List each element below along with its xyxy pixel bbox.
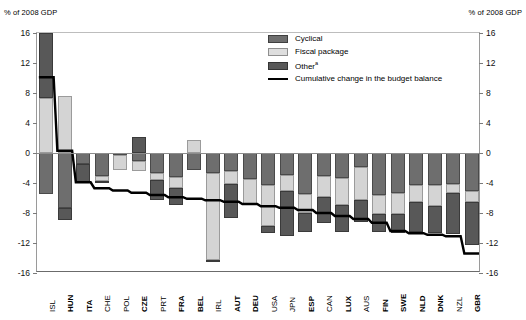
legend: CyclicalFiscal packageOtheraCumulative c… (268, 33, 483, 87)
y-tick-mark-right (479, 243, 483, 244)
chart-figure: % of 2008 GDP % of 2008 GDP 161612128844… (0, 0, 526, 320)
y-tick-mark-right (479, 93, 483, 94)
y-tick-label-left: 0 (25, 149, 30, 158)
x-axis-label-nld: NLD (419, 296, 427, 312)
legend-footnote-marker: a (315, 60, 318, 66)
y-axis-unit-right: % of 2008 GDP (469, 8, 522, 17)
legend-label-text: Fiscal package (295, 47, 348, 56)
x-axis-label-lux: LUX (345, 296, 353, 312)
x-axis-label-fra: FRA (178, 296, 186, 312)
y-tick-label-left: 8 (25, 89, 30, 98)
x-axis-label-hun: HUN (67, 295, 75, 312)
y-tick-label-right: 0 (486, 149, 491, 158)
legend-label-text: Cyclical (295, 34, 323, 43)
zero-line (37, 153, 479, 154)
y-tick-label-right: -8 (486, 209, 494, 218)
x-axis-label-ita: ITA (86, 300, 94, 312)
x-axis-label-isl: ISL (49, 300, 57, 312)
legend-label-line: Cumulative change in the budget balance (295, 75, 442, 83)
y-tick-label-left: 4 (25, 119, 30, 128)
y-tick-mark-right (479, 273, 483, 274)
x-axis-label-swe: SWE (400, 294, 408, 312)
y-tick-mark-right (479, 153, 483, 154)
legend-item-fiscal: Fiscal package (268, 47, 483, 58)
y-tick-label-left: -12 (18, 239, 30, 248)
x-axis-label-che: CHE (104, 295, 112, 312)
y-tick-label-left: -4 (22, 179, 30, 188)
legend-item-cyclical: Cyclical (268, 33, 483, 44)
x-axis-label-fin: FIN (382, 299, 390, 312)
y-tick-label-right: 8 (486, 89, 491, 98)
legend-swatch-other-icon (268, 62, 288, 70)
y-tick-label-left: -8 (22, 209, 30, 218)
y-tick-mark-left (33, 273, 37, 274)
x-axis-label-can: CAN (326, 295, 334, 312)
legend-label-fiscal: Fiscal package (295, 48, 348, 56)
legend-label-text: Cumulative change in the budget balance (295, 74, 442, 83)
y-tick-mark-right (479, 123, 483, 124)
y-tick-mark-right (479, 183, 483, 184)
y-tick-label-right: 12 (486, 59, 495, 68)
y-axis-unit-left: % of 2008 GDP (4, 8, 57, 17)
y-tick-label-right: -4 (486, 179, 494, 188)
x-axis-label-jpn: JPN (289, 297, 297, 312)
x-axis-label-aut: AUT (234, 296, 242, 312)
legend-item-line: Cumulative change in the budget balance (268, 74, 483, 85)
x-axis-label-usa: USA (271, 296, 279, 312)
x-axis-label-pol: POL (123, 296, 131, 312)
x-axis-label-irl: IRL (215, 300, 223, 312)
x-axis-label-deu: DEU (252, 295, 260, 312)
legend-label-text: Other (295, 61, 315, 70)
legend-label-cyclical: Cyclical (295, 35, 323, 43)
x-axis-label-aus: AUS (363, 296, 371, 312)
legend-item-other: Othera (268, 60, 483, 71)
y-tick-label-right: 4 (486, 119, 491, 128)
y-tick-mark-right (479, 213, 483, 214)
legend-swatch-fiscal-icon (268, 48, 288, 56)
x-axis-label-dnk: DNK (437, 295, 445, 312)
x-axis-label-gbr: GBR (474, 294, 482, 312)
legend-swatch-cyclical-icon (268, 35, 288, 43)
x-axis-label-nzl: NZL (456, 297, 464, 312)
y-tick-label-left: 12 (21, 59, 30, 68)
x-axis-label-esp: ESP (308, 296, 316, 312)
x-axis-label-cze: CZE (141, 296, 149, 312)
x-axis-label-bel: BEL (197, 296, 205, 312)
line-path (39, 77, 479, 253)
y-tick-label-left: -16 (18, 269, 30, 278)
y-tick-label-left: 16 (21, 29, 30, 38)
y-tick-label-right: -12 (486, 239, 498, 248)
x-axis-label-prt: PRT (160, 296, 168, 312)
y-tick-label-right: -16 (486, 269, 498, 278)
legend-label-other: Othera (295, 61, 318, 71)
legend-swatch-line-icon (268, 75, 288, 83)
y-tick-label-right: 16 (486, 29, 495, 38)
x-axis-labels: ISLHUNITACHEPOLCZEPRTFRABELIRLAUTDEUUSAJ… (36, 276, 480, 320)
